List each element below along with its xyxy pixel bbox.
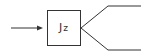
block-label-subscript: z: [63, 23, 68, 33]
output-branch-upper: [81, 6, 141, 28]
input-arrowhead: [37, 26, 43, 31]
block-label-main: J: [59, 21, 62, 34]
output-branch-lower: [81, 28, 141, 50]
block-label: Jz: [47, 10, 80, 45]
